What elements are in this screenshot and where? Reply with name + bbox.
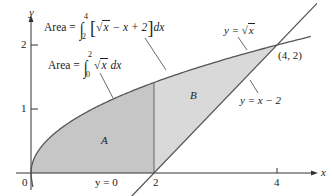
region-b-label: B — [190, 90, 197, 101]
y-axis-label: y — [29, 7, 34, 18]
sqrt-label-radicand: x — [248, 23, 255, 36]
line-label: y = x − 2 — [240, 95, 281, 106]
intersection-label: (4, 2) — [278, 50, 302, 61]
y-tick-label-2: 2 — [21, 39, 27, 50]
formula-b-rest: − x + 2 — [110, 21, 148, 33]
formula-a-limits: 20 — [88, 56, 94, 74]
region-a-fill — [31, 82, 154, 173]
formula-a-upper: 2 — [88, 51, 92, 59]
formula-b-upper: 4 — [84, 13, 88, 21]
x-tick-label-4: 4 — [274, 177, 280, 188]
formula-area-a: Area = ∫20√x dx — [48, 56, 121, 77]
formula-b-radical: √x — [96, 22, 109, 34]
x-axis-arrow-icon — [311, 171, 318, 176]
leader-line-label — [250, 80, 258, 93]
formula-area-b: Area = ∫42[√x − x + 2]dx — [44, 18, 164, 39]
x-axis-label: x — [321, 167, 326, 178]
formula-a-radicand: x — [100, 58, 107, 71]
sqrt-label-radical: √x — [242, 25, 255, 36]
formula-b-differential: dx — [153, 21, 164, 33]
baseline-label: y = 0 — [95, 177, 118, 188]
formula-a-differential: dx — [110, 59, 121, 71]
leader-sqrt-label — [238, 37, 247, 50]
sqrt-curve-label: y = √x — [224, 25, 255, 36]
formula-a-radical: √x — [94, 60, 107, 72]
formula-b-radicand: x — [102, 20, 109, 33]
formula-b-prefix: Area = — [44, 21, 79, 33]
formula-a-prefix: Area = — [48, 59, 83, 71]
region-a-label: A — [101, 135, 108, 146]
sqrt-label-prefix: y = — [224, 24, 242, 36]
formula-a-lower: 0 — [86, 71, 90, 79]
leader-area-b — [145, 38, 166, 70]
formula-b-limits: 42 — [84, 18, 90, 36]
y-tick-label-1: 1 — [21, 103, 27, 114]
x-tick-label-0: 0 — [22, 177, 28, 188]
formula-b-lower: 2 — [82, 33, 86, 41]
x-tick-label-2: 2 — [153, 177, 159, 188]
area-diagram: y x 2 1 0 2 4 y = 0 y = √x y = x − 2 (4,… — [0, 0, 332, 196]
sqrt-symbol: √ — [242, 24, 248, 36]
